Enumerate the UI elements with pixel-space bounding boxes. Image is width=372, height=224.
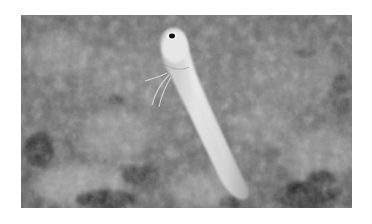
fish-eye [169,34,175,39]
jawfish-photo [21,15,352,208]
page [0,0,372,224]
photo-canvas [21,15,352,208]
